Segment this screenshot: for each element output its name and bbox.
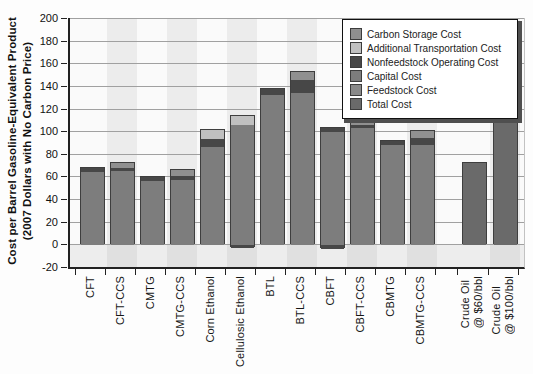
bar-btl-ccs [290, 71, 315, 244]
segment-nonfeedstock-operating-cost [411, 138, 434, 145]
x-tick [315, 269, 316, 275]
below-zero-band [70, 244, 524, 267]
x-label-anchor: CBFT-CCS [340, 276, 380, 333]
y-tick [61, 41, 67, 42]
legend-label: Feedstock Cost [367, 85, 436, 96]
legend-swatch-icon [350, 42, 362, 54]
y-tick [61, 86, 67, 87]
bar-corn-ethanol [200, 129, 225, 244]
legend-item-nonfeedstock-operating-cost: Nonfeedstock Operating Cost [350, 56, 510, 68]
y-tick [61, 154, 67, 155]
x-label-cmtg: CMTG [144, 276, 157, 309]
bar-cbft [320, 127, 345, 248]
x-tick [105, 269, 106, 275]
x-tick [405, 269, 406, 275]
y-tick [61, 109, 67, 110]
x-label-crude-oil-100-bbl: Crude Oil @ $100/bbl [490, 276, 516, 334]
segment-nonfeedstock-operating-cost [321, 245, 344, 248]
x-tick [345, 269, 346, 275]
x-tick [457, 269, 458, 275]
bar-cbmtg [380, 140, 405, 244]
segment-capital-cost [351, 128, 374, 246]
segment-nonfeedstock-operating-cost [231, 245, 254, 247]
segment-carbon-storage-cost [411, 131, 434, 138]
bar-cellulosic-ethanol [230, 115, 255, 246]
bar-cft-ccs [110, 162, 135, 245]
segment-nonfeedstock-operating-cost [81, 168, 104, 171]
x-tick [195, 269, 196, 275]
legend-label: Additional Transportation Cost [367, 43, 501, 54]
segment-capital-cost [111, 171, 134, 246]
x-label-anchor: CBMTG-CCS [400, 276, 440, 344]
x-label-anchor: CMTG-CCS [160, 276, 200, 337]
x-label-anchor: CBMTG [370, 276, 410, 317]
x-label-btl: BTL [264, 276, 277, 297]
segment-additional-transportation-cost [201, 130, 224, 139]
legend-label: Total Cost [367, 99, 411, 110]
bar-cbft-ccs [350, 115, 375, 244]
segment-capital-cost [291, 93, 314, 246]
legend-label: Nonfeedstock Operating Cost [367, 57, 498, 68]
y-tick [61, 176, 67, 177]
y-axis-title: Cost per Barrel Gasoline-Equivalent Prod… [5, 0, 35, 291]
segment-additional-transportation-cost [231, 116, 254, 125]
y-tick [61, 18, 67, 19]
bar-btl [260, 88, 285, 244]
x-label-crude-oil-60-bbl: Crude Oil @ $60/bbl [459, 276, 485, 328]
x-label-anchor: CBFT [310, 276, 350, 306]
y-tick [61, 63, 67, 64]
segment-nonfeedstock-operating-cost [201, 139, 224, 147]
segment-nonfeedstock-operating-cost [351, 125, 374, 127]
legend-label: Carbon Storage Cost [367, 29, 461, 40]
segment-carbon-storage-cost [111, 163, 134, 169]
x-label-cmtg-ccs: CMTG-CCS [174, 276, 187, 337]
x-label-cft: CFT [84, 276, 97, 298]
segment-carbon-storage-cost [171, 170, 194, 177]
x-label-anchor: Crude Oil @ $60/bbl [452, 276, 492, 328]
segment-capital-cost [81, 172, 104, 246]
chart-legend: Carbon Storage CostAdditional Transporta… [342, 19, 518, 119]
x-label-anchor: Cellulosic Ethanol [220, 276, 260, 367]
x-label-anchor: CFT-CCS [100, 276, 140, 325]
segment-capital-cost [381, 145, 404, 246]
bar-cmtg-ccs [170, 169, 195, 245]
bar-crude-oil-100-bbl [493, 114, 518, 244]
legend-swatch-icon [350, 28, 362, 40]
y-tick [61, 222, 67, 223]
segment-nonfeedstock-operating-cost [321, 128, 344, 133]
y-tick [61, 199, 67, 200]
bar-crude-oil-60-bbl [462, 162, 487, 245]
legend-label: Capital Cost [367, 71, 421, 82]
x-label-cellulosic-ethanol: Cellulosic Ethanol [234, 276, 247, 367]
segment-capital-cost [201, 147, 224, 245]
segment-total-cost [494, 115, 517, 245]
x-label-anchor: Corn Ethanol [190, 276, 230, 343]
legend-swatch-icon [350, 84, 362, 96]
x-label-cft-ccs: CFT-CCS [114, 276, 127, 325]
x-tick [435, 269, 436, 275]
x-label-cbft-ccs: CBFT-CCS [354, 276, 367, 333]
legend-swatch-icon [350, 98, 362, 110]
legend-item-capital-cost: Capital Cost [350, 70, 510, 82]
x-tick [135, 269, 136, 275]
x-label-btl-ccs: BTL-CCS [294, 276, 307, 324]
segment-capital-cost [141, 181, 164, 246]
segment-capital-cost [171, 180, 194, 246]
legend-swatch-icon [350, 56, 362, 68]
x-label-anchor: CMTG [130, 276, 170, 309]
x-tick [375, 269, 376, 275]
cost-per-barrel-chart: Cost per Barrel Gasoline-Equivalent Prod… [0, 0, 533, 374]
legend-swatch-icon [350, 70, 362, 82]
segment-nonfeedstock-operating-cost [381, 141, 404, 144]
x-tick [285, 269, 286, 275]
segment-capital-cost [411, 145, 434, 246]
segment-total-cost [463, 163, 486, 246]
segment-nonfeedstock-operating-cost [291, 80, 314, 92]
x-tick [75, 269, 76, 275]
bar-cbmtg-ccs [410, 130, 435, 244]
legend-item-additional-transportation-cost: Additional Transportation Cost [350, 42, 510, 54]
x-label-anchor: CFT [70, 276, 110, 298]
x-tick [255, 269, 256, 275]
x-label-anchor: BTL [250, 276, 290, 297]
segment-capital-cost [231, 125, 254, 245]
